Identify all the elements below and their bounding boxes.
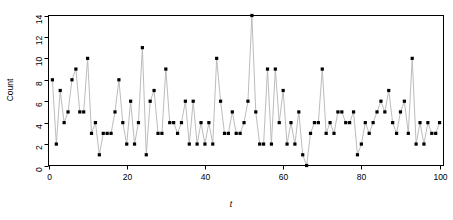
data-point bbox=[98, 153, 101, 156]
chart-container: 02468101214 020406080100 Count t bbox=[0, 0, 453, 220]
data-point bbox=[407, 132, 410, 135]
data-point bbox=[160, 132, 163, 135]
y-tick-label: 10 bbox=[34, 57, 44, 67]
data-point bbox=[297, 110, 300, 113]
data-point bbox=[391, 121, 394, 124]
data-point bbox=[278, 121, 281, 124]
data-point bbox=[141, 46, 144, 49]
data-point bbox=[184, 100, 187, 103]
data-point bbox=[129, 100, 132, 103]
x-tick-label: 80 bbox=[357, 172, 367, 182]
data-point bbox=[168, 121, 171, 124]
data-point bbox=[196, 142, 199, 145]
data-point bbox=[235, 132, 238, 135]
data-point bbox=[211, 142, 214, 145]
data-point bbox=[399, 110, 402, 113]
data-point bbox=[180, 121, 183, 124]
data-point bbox=[164, 67, 167, 70]
data-point bbox=[282, 89, 285, 92]
data-point bbox=[379, 100, 382, 103]
data-point bbox=[301, 153, 304, 156]
data-point bbox=[86, 57, 89, 60]
data-point bbox=[438, 121, 441, 124]
data-point bbox=[125, 142, 128, 145]
y-tick-label: 0 bbox=[34, 167, 44, 172]
data-point bbox=[121, 121, 124, 124]
data-point bbox=[422, 142, 425, 145]
data-point bbox=[266, 67, 269, 70]
data-point bbox=[372, 121, 375, 124]
data-point bbox=[364, 121, 367, 124]
data-point bbox=[274, 67, 277, 70]
data-point bbox=[239, 132, 242, 135]
data-point bbox=[317, 121, 320, 124]
data-point bbox=[285, 142, 288, 145]
data-point bbox=[172, 121, 175, 124]
data-point bbox=[188, 142, 191, 145]
data-point bbox=[215, 57, 218, 60]
data-point bbox=[102, 132, 105, 135]
data-point bbox=[352, 110, 355, 113]
x-tick-label: 0 bbox=[47, 172, 52, 182]
data-point bbox=[418, 121, 421, 124]
data-point bbox=[59, 89, 62, 92]
data-point bbox=[63, 121, 66, 124]
data-point bbox=[133, 142, 136, 145]
data-point bbox=[383, 110, 386, 113]
y-axis-title: Count bbox=[5, 78, 15, 101]
data-point bbox=[94, 121, 97, 124]
y-tick-label: 12 bbox=[34, 36, 44, 46]
data-point bbox=[149, 100, 152, 103]
data-point bbox=[258, 142, 261, 145]
data-point bbox=[82, 110, 85, 113]
data-point bbox=[321, 67, 324, 70]
data-point bbox=[78, 110, 81, 113]
data-point bbox=[242, 121, 245, 124]
data-point bbox=[309, 132, 312, 135]
data-point bbox=[254, 110, 257, 113]
data-point bbox=[344, 121, 347, 124]
data-point bbox=[415, 142, 418, 145]
data-point bbox=[106, 132, 109, 135]
data-point bbox=[348, 121, 351, 124]
data-point bbox=[55, 142, 58, 145]
data-point bbox=[117, 78, 120, 81]
data-point bbox=[70, 78, 73, 81]
data-point bbox=[74, 67, 77, 70]
x-tick-label: 100 bbox=[433, 172, 447, 182]
y-tick-label: 4 bbox=[34, 124, 44, 129]
data-point bbox=[430, 132, 433, 135]
data-point bbox=[340, 110, 343, 113]
data-point bbox=[231, 110, 234, 113]
x-tick-label: 40 bbox=[201, 172, 211, 182]
data-point bbox=[328, 121, 331, 124]
data-point bbox=[289, 121, 292, 124]
y-tick-label: 14 bbox=[34, 15, 44, 25]
y-tick-label: 8 bbox=[34, 81, 44, 86]
x-tick-label: 60 bbox=[279, 172, 289, 182]
data-point bbox=[426, 121, 429, 124]
data-point bbox=[246, 100, 249, 103]
data-point bbox=[227, 132, 230, 135]
data-point bbox=[137, 121, 140, 124]
data-point bbox=[113, 110, 116, 113]
data-point bbox=[395, 132, 398, 135]
data-point bbox=[313, 121, 316, 124]
data-point bbox=[332, 132, 335, 135]
data-point bbox=[293, 142, 296, 145]
data-point bbox=[387, 89, 390, 92]
data-point bbox=[336, 110, 339, 113]
data-point bbox=[262, 142, 265, 145]
data-point bbox=[145, 153, 148, 156]
y-tick-label: 6 bbox=[34, 102, 44, 107]
data-point bbox=[375, 110, 378, 113]
data-point bbox=[270, 142, 273, 145]
data-point bbox=[356, 153, 359, 156]
data-point bbox=[192, 100, 195, 103]
count-vs-t-line-chart: 02468101214 020406080100 Count t bbox=[0, 0, 453, 220]
data-point bbox=[199, 121, 202, 124]
data-point bbox=[325, 132, 328, 135]
data-point bbox=[203, 142, 206, 145]
y-tick-label: 2 bbox=[34, 145, 44, 150]
x-tick-label: 20 bbox=[123, 172, 133, 182]
